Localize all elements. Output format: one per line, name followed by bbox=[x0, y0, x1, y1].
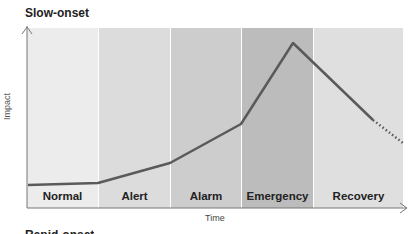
next-section-title: Rapid-onset bbox=[25, 229, 94, 234]
impact-line-projection bbox=[373, 120, 403, 143]
y-axis-label: Impact bbox=[2, 80, 12, 120]
x-axis-label: Time bbox=[205, 213, 225, 223]
phase-label-emergency: Emergency bbox=[242, 190, 313, 202]
impact-line bbox=[28, 43, 373, 185]
phase-label-alert: Alert bbox=[99, 190, 170, 202]
phase-label-alarm: Alarm bbox=[171, 190, 241, 202]
phase-label-normal: Normal bbox=[27, 190, 98, 202]
phase-label-recovery: Recovery bbox=[314, 190, 403, 202]
